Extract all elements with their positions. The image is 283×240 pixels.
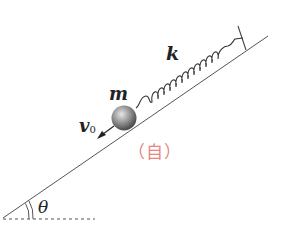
velocity-subscript: 0 — [89, 124, 95, 135]
velocity-symbol: v — [79, 115, 89, 136]
velocity-label: v0 — [79, 117, 96, 135]
angle-arc-icon — [26, 201, 34, 219]
mass-label: m — [109, 85, 128, 103]
spring-constant-label: k — [166, 44, 179, 63]
annotation-label: （自） — [128, 144, 182, 161]
ball-mass — [112, 106, 137, 131]
incline-line — [3, 36, 268, 218]
angle-label: θ — [38, 199, 48, 216]
velocity-arrow-icon — [97, 126, 114, 139]
spring-icon — [136, 38, 243, 108]
